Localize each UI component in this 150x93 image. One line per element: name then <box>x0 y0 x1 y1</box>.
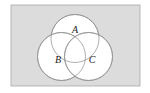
venn-diagram-figure: A B C <box>0 0 150 93</box>
set-label-b: B <box>55 54 61 65</box>
set-label-a: A <box>71 24 79 35</box>
venn-diagram-svg: A B C <box>0 0 150 93</box>
set-label-c: C <box>89 54 96 65</box>
